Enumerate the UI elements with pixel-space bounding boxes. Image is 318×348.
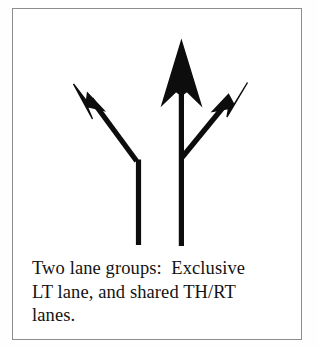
caption-line-1: Two lane groups: Exclusive (32, 257, 290, 281)
figure-canvas: Two lane groups: Exclusive LT lane, and … (0, 0, 318, 348)
figure-caption: Two lane groups: Exclusive LT lane, and … (32, 257, 290, 328)
lane-movement-diagram (13, 9, 303, 257)
caption-line-2: LT lane, and shared TH/RT (32, 281, 290, 305)
through-arrowhead (162, 41, 201, 105)
left-turn-arrow (74, 84, 139, 245)
caption-line-3: lanes. (32, 304, 290, 328)
figure-frame-border: Two lane groups: Exclusive LT lane, and … (12, 8, 302, 340)
lane-diagram-svg (13, 9, 303, 257)
